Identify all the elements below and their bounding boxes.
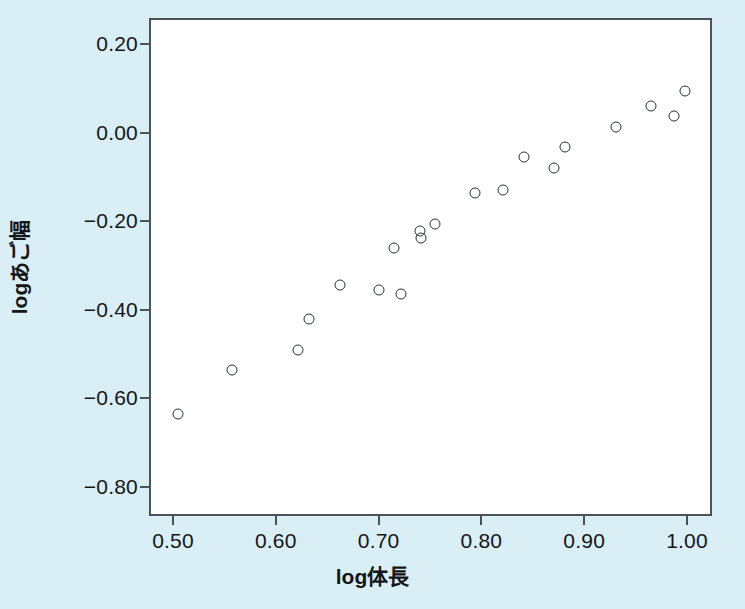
x-tick-mark [583, 516, 585, 525]
y-tick-label: −0.40 [84, 298, 138, 322]
x-tick-label: 0.60 [255, 529, 297, 553]
y-tick-mark [140, 486, 149, 488]
plot-area-frame [149, 18, 712, 516]
y-tick-mark [140, 220, 149, 222]
y-tick-label: −0.60 [84, 386, 138, 410]
x-tick-mark [378, 516, 380, 525]
x-axis-title: log体長 [0, 560, 745, 590]
x-tick-mark [172, 516, 174, 525]
y-tick-label: −0.20 [84, 209, 138, 233]
y-axis-title: logあご幅 [3, 220, 33, 315]
scatter-plot-figure: 0.200.00−0.20−0.40−0.60−0.80 0.500.600.7… [0, 0, 745, 609]
x-tick-mark [480, 516, 482, 525]
x-tick-mark [275, 516, 277, 525]
y-tick-mark [140, 132, 149, 134]
x-tick-label: 1.00 [666, 529, 708, 553]
x-tick-mark [686, 516, 688, 525]
y-tick-mark [140, 397, 149, 399]
y-tick-label: 0.00 [96, 121, 138, 145]
x-tick-label: 0.70 [358, 529, 400, 553]
y-tick-label: 0.20 [96, 32, 138, 56]
x-tick-label: 0.50 [152, 529, 194, 553]
x-tick-label: 0.90 [563, 529, 605, 553]
y-tick-label: −0.80 [84, 475, 138, 499]
y-tick-mark [140, 43, 149, 45]
x-tick-label: 0.80 [461, 529, 503, 553]
y-tick-mark [140, 309, 149, 311]
